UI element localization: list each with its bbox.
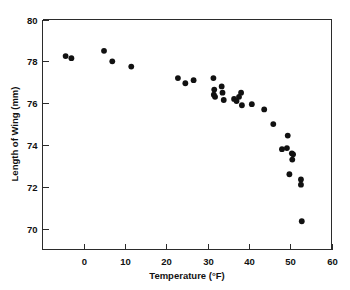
data-point — [212, 94, 218, 100]
data-point — [128, 64, 134, 70]
data-point — [284, 145, 290, 151]
data-point — [220, 90, 226, 96]
data-point — [289, 157, 295, 163]
data-point — [239, 102, 245, 108]
data-point — [238, 90, 244, 96]
data-point — [285, 133, 291, 139]
x-tick-label: 10 — [120, 256, 131, 267]
y-tick-label: 70 — [27, 224, 38, 235]
x-tick-label: 0 — [82, 256, 87, 267]
y-tick-label: 78 — [27, 56, 38, 67]
data-point — [191, 77, 197, 83]
data-point — [69, 55, 75, 61]
data-point — [211, 75, 217, 81]
x-tick-label: 40 — [244, 256, 255, 267]
data-point — [270, 121, 276, 127]
data-point — [261, 107, 267, 113]
y-tick-label: 80 — [27, 15, 38, 26]
data-point — [101, 48, 107, 54]
data-point — [221, 97, 227, 103]
x-tick-label: 20 — [161, 256, 172, 267]
data-point — [299, 218, 305, 224]
y-tick-label: 76 — [27, 98, 38, 109]
data-point — [109, 58, 115, 64]
data-point — [298, 182, 304, 188]
data-point — [182, 80, 188, 86]
data-point — [63, 53, 69, 59]
data-point — [290, 151, 296, 157]
data-point — [249, 101, 255, 107]
scatter-plot-figure: 707274767880 0102030405060 Temperature (… — [0, 0, 350, 290]
data-point — [219, 84, 225, 90]
x-tick-label: 60 — [327, 256, 338, 267]
x-tick-label: 50 — [285, 256, 296, 267]
data-point — [175, 75, 181, 81]
y-tick-label: 72 — [27, 182, 38, 193]
y-tick-label: 74 — [27, 140, 38, 151]
x-tick-label: 30 — [203, 256, 214, 267]
data-point — [286, 171, 292, 177]
data-point — [279, 146, 285, 152]
plot-canvas: 707274767880 0102030405060 Temperature (… — [0, 0, 350, 290]
x-axis-title: Temperature (°F) — [149, 270, 224, 281]
y-axis-title: Length of Wing (mm) — [9, 87, 20, 182]
data-point — [211, 87, 217, 93]
plot-background — [0, 0, 350, 290]
data-point — [298, 177, 304, 183]
